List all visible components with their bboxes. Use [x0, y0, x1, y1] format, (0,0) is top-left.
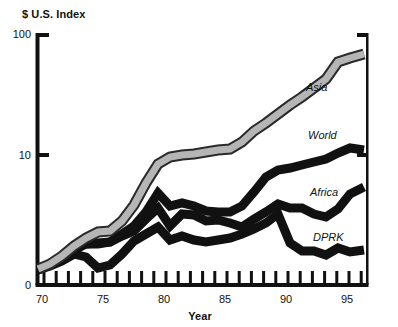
x-tick-minor	[116, 271, 119, 284]
series-label-dprk: DPRK	[313, 231, 344, 243]
x-tick-major	[226, 271, 229, 284]
x-tick-minor	[299, 271, 302, 284]
x-tick-label-85: 85	[219, 293, 231, 305]
y-tick-label-0: 0	[25, 279, 31, 291]
x-tick-minor	[311, 271, 314, 284]
x-tick-major	[165, 271, 168, 284]
x-tick-minor	[152, 271, 155, 284]
x-tick-label-90: 90	[280, 293, 292, 305]
x-tick-minor	[360, 271, 363, 284]
x-tick-minor	[128, 271, 131, 284]
right-axis-spine	[366, 33, 369, 285]
y-axis-title: $ U.S. Index	[22, 8, 86, 20]
x-tick-minor	[189, 271, 192, 284]
series-label-asia: Asia	[305, 81, 327, 93]
x-tick-minor	[177, 271, 180, 284]
x-tick-label-80: 80	[158, 293, 170, 305]
x-tick-minor	[67, 271, 70, 284]
y-tick-100-right	[357, 33, 367, 37]
x-tick-minor	[213, 271, 216, 284]
x-tick-minor	[250, 271, 253, 284]
x-tick-minor	[91, 271, 94, 284]
x-tick-minor	[323, 271, 326, 284]
x-tick-label-95: 95	[341, 293, 353, 305]
series-label-africa: Africa	[309, 186, 338, 198]
y-tick-label-10: 10	[19, 149, 31, 161]
x-tick-minor	[238, 271, 241, 284]
x-tick-minor	[201, 271, 204, 284]
x-tick-major	[348, 271, 351, 284]
x-tick-minor	[140, 271, 143, 284]
x-tick-minor	[79, 271, 82, 284]
series-label-world: World	[308, 129, 338, 141]
x-tick-label-75: 75	[97, 293, 109, 305]
x-tick-label-70: 70	[36, 293, 48, 305]
y-tick-10	[39, 153, 49, 157]
x-tick-minor	[274, 271, 277, 284]
x-tick-major	[287, 271, 290, 284]
x-tick-major	[104, 271, 107, 284]
y-axis-spine	[36, 33, 40, 285]
y-tick-label-100: 100	[13, 28, 31, 40]
x-tick-minor	[335, 271, 338, 284]
x-axis-title: Year	[188, 310, 212, 322]
chart-figure: Asia World Africa DPRK 100 10 0 70 75 80…	[0, 0, 398, 327]
x-tick-minor	[262, 271, 265, 284]
x-tick-minor	[55, 271, 58, 284]
y-tick-100	[39, 33, 49, 37]
line-chart: Asia World Africa DPRK 100 10 0 70 75 80…	[0, 0, 398, 327]
